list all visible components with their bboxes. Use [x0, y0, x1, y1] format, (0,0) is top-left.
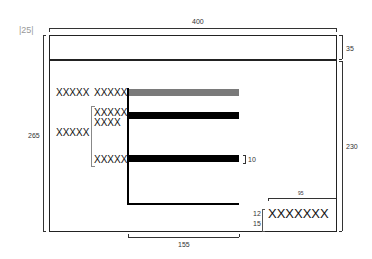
caption-width-label: 95 — [298, 191, 304, 196]
width-dimension-tick-right — [336, 28, 337, 32]
caption-width-tick — [268, 198, 269, 201]
width-dimension-tick-left — [49, 28, 50, 32]
body-height-line — [342, 61, 343, 231]
header-height-tick-bottom — [339, 59, 342, 60]
height-dimension-label: 265 — [28, 132, 40, 139]
body-height-tick-bottom — [339, 231, 342, 232]
bar-1 — [129, 89, 239, 96]
row1-group-label: XXXXX — [56, 88, 89, 98]
chart-width-tick-right — [239, 234, 240, 237]
body-height-label: 230 — [346, 143, 358, 150]
group2-item2: XXXXX — [94, 155, 127, 165]
bar-thickness-bracket — [243, 155, 246, 164]
group2-item1-line2: XXXX — [94, 118, 121, 128]
chart-x-axis — [127, 203, 239, 205]
height-dimension-tick-top — [43, 35, 46, 36]
caption-gap-bracket — [262, 209, 265, 232]
caption-top-gap-label: 12 — [253, 210, 261, 217]
width-dimension-label: 400 — [192, 18, 204, 25]
caption-width-line — [268, 198, 336, 199]
width-dimension-line — [49, 28, 336, 29]
group2-label: XXXXX — [56, 128, 89, 138]
row1-label: XXXXX — [94, 88, 127, 98]
height-dimension-tick-bottom — [43, 231, 46, 232]
chart-width-line — [128, 237, 239, 238]
chart-y-axis — [127, 88, 129, 205]
chart-width-label: 155 — [178, 241, 190, 248]
header-height-tick-top — [339, 35, 342, 36]
chart-width-tick-left — [128, 234, 129, 237]
bar-2 — [129, 112, 239, 119]
caption-text: XXXXXXX — [268, 207, 329, 220]
header-height-line — [342, 35, 343, 59]
bar-thickness-label: 10 — [248, 156, 256, 163]
header-height-label: 35 — [346, 45, 354, 52]
header-divider — [49, 59, 337, 61]
bar-3 — [129, 155, 239, 162]
height-dimension-line — [43, 35, 44, 232]
body-height-tick-top — [339, 61, 342, 62]
layout-tag: |25| — [19, 26, 34, 35]
caption-bottom-gap-label: 15 — [253, 220, 261, 227]
